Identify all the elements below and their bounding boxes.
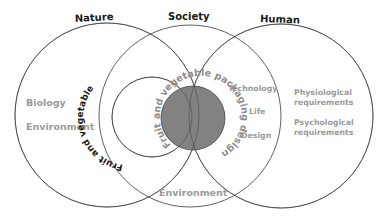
nature-title: Nature <box>75 11 114 24</box>
society-title: Society <box>168 11 210 22</box>
venn-diagram: Nature Society Human Biology Environment… <box>0 0 383 217</box>
core-circle <box>161 86 225 150</box>
society-item-life: Life <box>249 107 265 116</box>
society-item-environment: Environment <box>159 187 228 198</box>
human-item-psychological-1: Psychological <box>294 118 354 127</box>
venn-svg: Nature Society Human Biology Environment… <box>0 0 383 217</box>
human-item-physiological-2: requirements <box>294 98 354 107</box>
fruit-vegetable-arc-text: Fruit and vegetable <box>75 83 124 173</box>
human-item-psychological-2: requirements <box>294 128 354 137</box>
human-title: Human <box>260 13 300 25</box>
nature-item-biology: Biology <box>26 97 67 108</box>
fruit-vegetable-arc-label: Fruit and vegetable <box>75 83 124 173</box>
human-item-physiological-1: Physiological <box>294 88 352 97</box>
